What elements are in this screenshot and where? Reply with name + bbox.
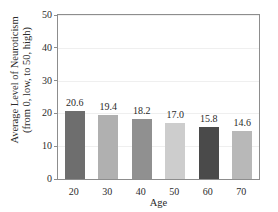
- y-axis-tick-label: 30: [42, 74, 52, 87]
- y-axis-tick-label: 40: [42, 41, 52, 54]
- bar[interactable]: [165, 123, 185, 179]
- y-axis-label: Average Level of Neuroticism (from 0, lo…: [8, 0, 34, 175]
- x-axis-label: Age: [57, 196, 260, 209]
- bar[interactable]: [98, 115, 118, 179]
- y-axis-label-line-1: Average Level of Neuroticism: [9, 16, 21, 143]
- bar-series: 20.619.418.217.015.814.6: [58, 15, 259, 179]
- bar-slot: 19.4: [92, 15, 126, 179]
- bar-value-label: 15.8: [200, 113, 218, 125]
- y-axis-tick-label: 20: [42, 106, 52, 119]
- bar[interactable]: [65, 111, 85, 179]
- y-axis-tick-label: 10: [42, 139, 52, 152]
- bar[interactable]: [132, 119, 152, 179]
- bar-value-label: 14.6: [234, 117, 252, 129]
- y-axis-tick-label: 0: [47, 172, 52, 185]
- bar[interactable]: [232, 131, 252, 179]
- bar[interactable]: [199, 127, 219, 179]
- plot-area: 01020304050 20.619.418.217.015.814.6: [57, 14, 260, 180]
- bar-value-label: 20.6: [66, 97, 84, 109]
- y-axis-tick-label: 50: [42, 8, 52, 21]
- bar-value-label: 19.4: [100, 101, 118, 113]
- bar-slot: 15.8: [192, 15, 226, 179]
- bar-slot: 20.6: [58, 15, 92, 179]
- bar-slot: 17.0: [159, 15, 193, 179]
- y-axis-label-line-2: (from 0, low, to 50, high): [21, 27, 33, 133]
- bar-value-label: 18.2: [133, 105, 151, 117]
- bar-slot: 14.6: [226, 15, 260, 179]
- bar-value-label: 17.0: [167, 109, 185, 121]
- bar-slot: 18.2: [125, 15, 159, 179]
- bar-chart-figure: Average Level of Neuroticism (from 0, lo…: [0, 0, 278, 212]
